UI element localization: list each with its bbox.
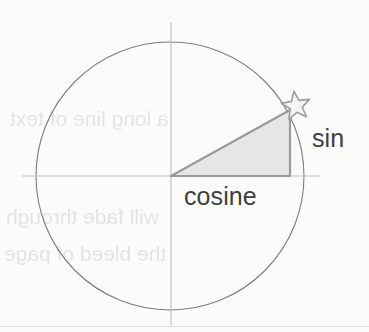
- sin-label: sin: [312, 126, 344, 151]
- figure-canvas: a long line of text will fade through th…: [0, 0, 369, 332]
- cosine-label: cosine: [184, 184, 257, 209]
- right-triangle: [171, 110, 290, 176]
- page-bottom-rule: [0, 326, 369, 327]
- trigonometry-figure: [0, 0, 369, 332]
